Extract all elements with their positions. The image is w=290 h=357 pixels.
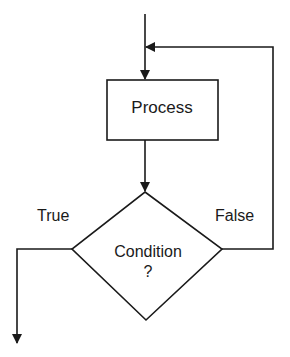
condition-label-line2: ?: [144, 263, 153, 281]
process-label: Process: [131, 98, 192, 118]
true-branch-arrow: [17, 249, 72, 343]
flowchart-canvas: [0, 0, 290, 357]
false-branch-label: False: [215, 207, 254, 225]
condition-label-line1: Condition: [114, 243, 182, 261]
true-branch-label: True: [37, 207, 69, 225]
